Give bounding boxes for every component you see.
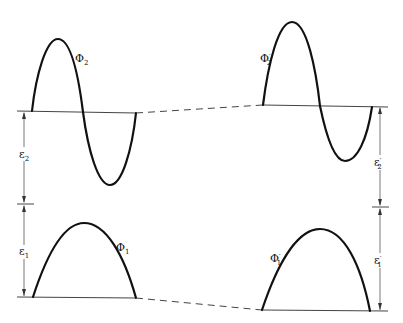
arrow-down-icon: [378, 303, 382, 310]
wavefunction-diagram: ε2 ε1 Φ2 Φ1 Φ′2 Φ′1 ε′2 ε′1: [0, 0, 403, 323]
right-upper-baseline: [263, 105, 388, 107]
upper-connector-dashed: [136, 105, 263, 113]
arrow-up-icon: [378, 107, 382, 114]
right-phi1prime-curve: [262, 229, 370, 311]
label-phi2-prime: Φ′2: [260, 52, 271, 67]
arrow-down-icon: [378, 199, 382, 206]
label-phi1: Φ1: [116, 241, 130, 256]
left-lower-baseline: [17, 297, 136, 298]
label-phi2: Φ2: [75, 52, 89, 67]
arrow-up-icon: [378, 208, 382, 215]
label-phi1-prime: Φ′1: [270, 252, 281, 267]
arrow-up-icon: [22, 112, 26, 119]
lower-connector-dashed: [136, 298, 262, 310]
arrow-down-icon: [22, 289, 26, 296]
label-epsilon2-prime: ε′2: [374, 156, 382, 171]
left-upper-baseline: [17, 111, 136, 113]
arrow-down-icon: [22, 196, 26, 203]
label-epsilon1-prime: ε′1: [374, 254, 382, 269]
right-phi2prime-curve: [263, 22, 372, 161]
left-phi1-curve: [33, 223, 136, 298]
arrow-up-icon: [22, 205, 26, 212]
